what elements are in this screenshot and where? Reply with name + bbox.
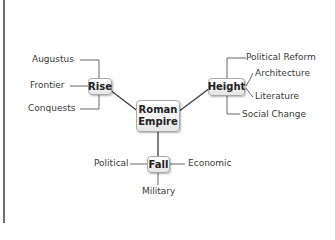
central-node-roman-empire[interactable]: Roman Empire xyxy=(136,100,180,132)
leaf-political-reform[interactable]: Political Reform xyxy=(246,52,316,63)
central-node-line2: Empire xyxy=(138,116,178,128)
branch-node-height[interactable]: Height xyxy=(208,78,245,96)
central-node-line1: Roman xyxy=(139,104,178,116)
branch-node-fall[interactable]: Fall xyxy=(147,156,170,173)
leaf-social-change[interactable]: Social Change xyxy=(242,109,306,120)
leaf-frontier[interactable]: Frontier xyxy=(30,80,65,91)
leaf-economic[interactable]: Economic xyxy=(188,158,232,169)
branch-label-fall: Fall xyxy=(149,159,169,171)
branch-label-rise: Rise xyxy=(88,81,112,93)
leaf-architecture[interactable]: Architecture xyxy=(255,68,310,79)
leaf-military[interactable]: Military xyxy=(142,186,175,197)
leaf-literature[interactable]: Literature xyxy=(255,91,299,102)
leaf-political[interactable]: Political xyxy=(94,158,129,169)
branch-node-rise[interactable]: Rise xyxy=(88,78,112,95)
leaf-augustus[interactable]: Augustus xyxy=(32,54,74,65)
branch-label-height: Height xyxy=(208,81,246,93)
leaf-conquests[interactable]: Conquests xyxy=(28,103,75,114)
